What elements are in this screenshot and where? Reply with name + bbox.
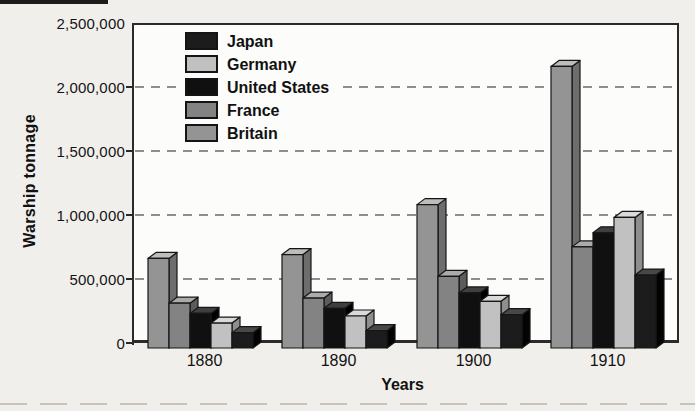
bar-japan-1910 bbox=[635, 269, 664, 348]
x-label-1890: 1890 bbox=[282, 352, 395, 370]
bar-france-1880-front-face bbox=[169, 303, 190, 348]
bar-britain-1910-front-face bbox=[551, 66, 572, 348]
bar-japan-1900 bbox=[501, 309, 530, 348]
bar-britain-1900-front-face bbox=[417, 205, 438, 348]
bar-britain-1890-front-face bbox=[282, 255, 303, 348]
legend-item-france: France bbox=[183, 99, 289, 121]
legend-label-france: France bbox=[227, 102, 279, 119]
bar-germany-1900-front-face bbox=[480, 301, 501, 348]
legend-item-germany: Germany bbox=[183, 53, 306, 75]
bar-japan-1900-front-face bbox=[501, 315, 522, 348]
bar-japan-1900-side-face bbox=[522, 309, 530, 348]
bar-germany-1890-front-face bbox=[345, 316, 366, 348]
bar-united-states-1890-front-face bbox=[324, 308, 345, 348]
legend-label-japan: Japan bbox=[227, 33, 273, 50]
bar-united-states-1880-front-face bbox=[190, 313, 211, 348]
legend-label-germany: Germany bbox=[227, 56, 296, 73]
legend-swatch-united-states bbox=[185, 78, 218, 96]
bar-united-states-1910-front-face bbox=[593, 233, 614, 348]
bar-japan-1880 bbox=[232, 327, 261, 348]
bar-japan-1890-front-face bbox=[366, 331, 387, 348]
legend-label-united-states: United States bbox=[227, 79, 329, 96]
bar-germany-1910-front-face bbox=[614, 217, 635, 348]
bar-japan-1910-side-face bbox=[656, 269, 664, 348]
legend-item-britain: Britain bbox=[183, 122, 288, 144]
bars-layer bbox=[0, 0, 695, 411]
page-scan-artifact-bottom-rule bbox=[0, 403, 695, 405]
x-label-1910: 1910 bbox=[551, 352, 664, 370]
legend: JapanGermanyUnited StatesFranceBritain bbox=[183, 30, 339, 145]
x-label-1880: 1880 bbox=[148, 352, 261, 370]
bar-japan-1890 bbox=[366, 325, 395, 348]
bar-japan-1910-front-face bbox=[635, 275, 656, 348]
legend-swatch-britain bbox=[185, 124, 218, 142]
legend-item-united-states: United States bbox=[183, 76, 339, 98]
bar-united-states-1900-front-face bbox=[459, 293, 480, 348]
bar-britain-1880-front-face bbox=[148, 258, 169, 348]
legend-swatch-japan bbox=[185, 32, 218, 50]
warship-tonnage-chart: Warship tonnage Years 0500,0001,000,0001… bbox=[0, 0, 695, 411]
bar-france-1900-front-face bbox=[438, 276, 459, 348]
x-label-1900: 1900 bbox=[417, 352, 530, 370]
page-scan-artifact-top bbox=[0, 0, 108, 4]
bar-france-1890-front-face bbox=[303, 298, 324, 348]
bar-japan-1880-front-face bbox=[232, 333, 253, 348]
legend-item-japan: Japan bbox=[183, 30, 283, 52]
bar-germany-1880-front-face bbox=[211, 323, 232, 348]
legend-swatch-germany bbox=[185, 55, 218, 73]
legend-label-britain: Britain bbox=[227, 125, 278, 142]
legend-swatch-france bbox=[185, 101, 218, 119]
bar-france-1910-front-face bbox=[572, 247, 593, 348]
